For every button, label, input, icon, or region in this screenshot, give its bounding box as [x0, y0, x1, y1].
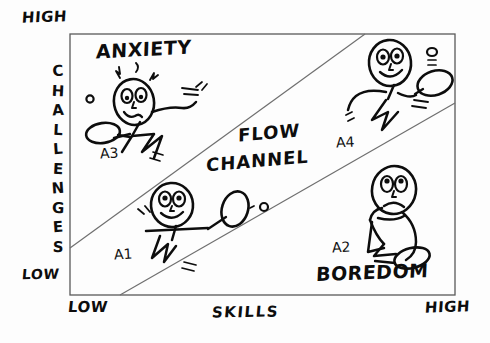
axis-x-low-label: LOW — [67, 298, 109, 316]
figure-a3-ball — [86, 95, 93, 102]
figure-label-a4: A4 — [336, 134, 355, 151]
axis-x-high-label: HIGH — [424, 297, 470, 317]
figure-a1-ball — [260, 203, 268, 211]
figure-a4 — [346, 38, 456, 130]
axis-x-title: SKILLS — [211, 302, 280, 321]
figure-a4-ball — [427, 48, 437, 56]
figure-a1-racket — [217, 188, 253, 230]
figure-label-a1: A1 — [114, 246, 133, 263]
region-label-boredom: BOREDOM — [315, 259, 429, 285]
figure-a4-head — [367, 38, 414, 88]
flow-channel-diagram: HIGH LOW CHALLENGES LOW SKILLS HIGH ANXI… — [0, 0, 490, 343]
figure-label-a2: A2 — [332, 239, 351, 256]
figure-a1 — [138, 182, 268, 271]
figure-a1-head — [150, 182, 195, 229]
figure-a3-racket — [85, 121, 121, 146]
figure-a2 — [368, 163, 432, 273]
axis-y-low-label: LOW — [21, 266, 60, 283]
figure-a4-racket — [414, 66, 456, 100]
axis-y-high-label: HIGH — [21, 7, 67, 27]
axis-y-title: CHALLENGES — [46, 62, 70, 257]
figure-label-a3: A3 — [100, 145, 119, 162]
